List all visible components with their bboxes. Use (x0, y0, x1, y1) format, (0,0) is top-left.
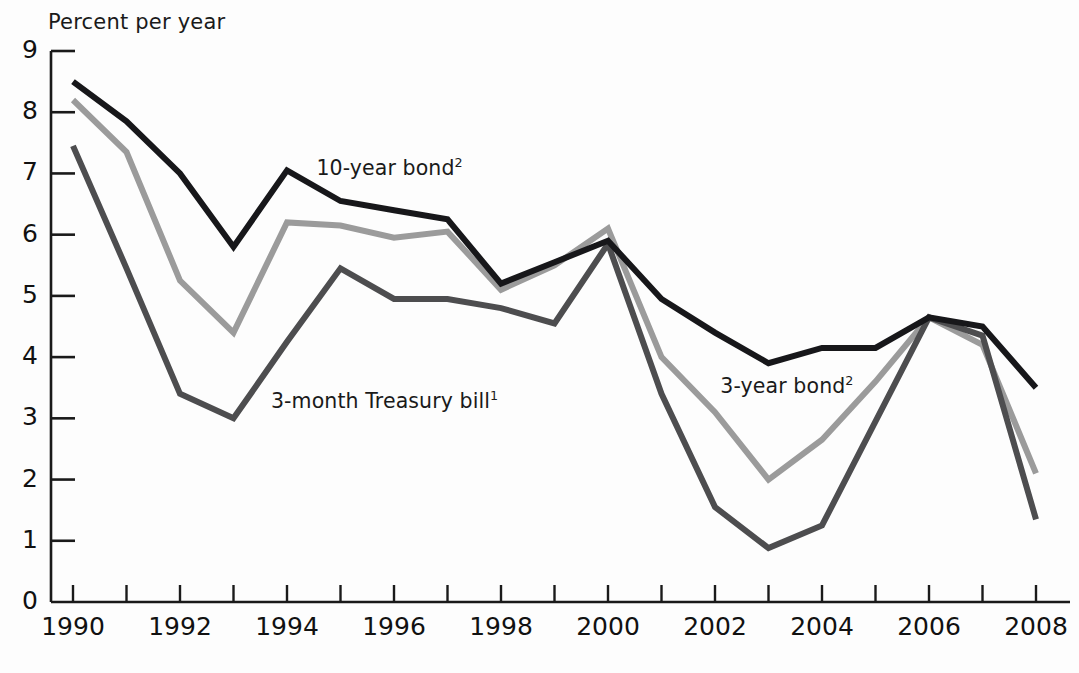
x-axis-tick-label: 1992 (125, 614, 235, 639)
x-axis-tick-label: 1996 (339, 614, 449, 639)
series-label-text: 3-year bond (720, 374, 845, 398)
interest-rates-line-chart: Percent per year 0123456789 199019921994… (0, 0, 1079, 673)
y-axis-tick-label: 7 (4, 159, 38, 184)
series-line-10-year-bond (73, 82, 1036, 388)
series-label-footnote: 2 (455, 156, 463, 171)
y-axis-tick-label: 4 (4, 343, 38, 368)
y-axis-tick-label: 0 (4, 588, 38, 613)
series-line-3-year-bond (73, 100, 1036, 480)
series-label-text: 3-month Treasury bill (271, 389, 490, 413)
y-axis-tick-label: 3 (4, 404, 38, 429)
chart-plot-area (0, 0, 1079, 673)
y-axis-tick-label: 2 (4, 466, 38, 491)
x-axis-tick-label: 2000 (553, 614, 663, 639)
series-label-10-year-bond: 10-year bond2 (316, 156, 462, 180)
series-label-text: 10-year bond (316, 156, 454, 180)
y-axis-tick-label: 5 (4, 282, 38, 307)
x-axis-tick-label: 2002 (660, 614, 770, 639)
y-axis-tick-label: 1 (4, 527, 38, 552)
series-label-3-month-treasury-bill: 3-month Treasury bill1 (271, 389, 498, 413)
series-label-footnote: 1 (490, 388, 498, 403)
y-axis-tick-label: 8 (4, 98, 38, 123)
x-axis-tick-label: 1990 (18, 614, 128, 639)
y-axis-tick-label: 9 (4, 37, 38, 62)
x-axis-tick-label: 2008 (981, 614, 1079, 639)
series-label-3-year-bond: 3-year bond2 (720, 374, 853, 398)
x-axis-tick-label: 2006 (874, 614, 984, 639)
x-axis-tick-label: 2004 (767, 614, 877, 639)
y-axis-tick-label: 6 (4, 221, 38, 246)
series-label-footnote: 2 (845, 373, 853, 388)
series-line-3-month-treasury-bill (73, 146, 1036, 548)
x-axis-tick-label: 1994 (232, 614, 342, 639)
x-axis-tick-label: 1998 (446, 614, 556, 639)
series-layer (73, 82, 1036, 549)
